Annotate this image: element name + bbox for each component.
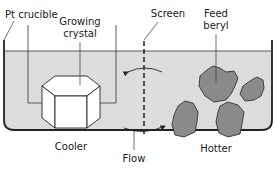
pt-crucible-leader — [4, 21, 14, 40]
label-growing-crystal-1: Growing — [59, 16, 100, 27]
label-feed-1: Feed — [204, 8, 228, 19]
beryl-growth-diagram: Pt crucible Growing crystal Screen Feed … — [0, 0, 277, 169]
label-pt-crucible: Pt crucible — [5, 9, 58, 20]
screen-leader — [144, 22, 158, 40]
label-feed-2: beryl — [203, 20, 228, 31]
label-cooler: Cooler — [55, 141, 88, 152]
label-hotter: Hotter — [200, 143, 233, 154]
label-screen: Screen — [151, 8, 185, 19]
label-growing-crystal-2: crystal — [63, 28, 97, 39]
growing-crystal — [42, 76, 100, 128]
label-flow: Flow — [123, 153, 146, 164]
